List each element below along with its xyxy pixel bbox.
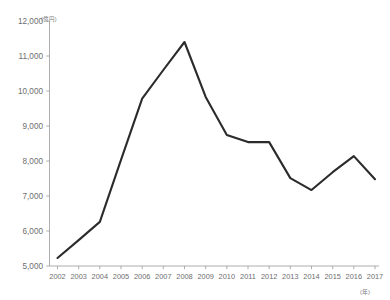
x-tick-label: 2012 bbox=[261, 272, 277, 281]
x-tick-label: 2010 bbox=[219, 272, 235, 281]
y-tick-label: 9,000 bbox=[23, 122, 44, 131]
line-chart: (億円) (年) 12,00011,00010,0009,0008,0007,0… bbox=[0, 0, 390, 300]
x-tick-label: 2014 bbox=[303, 272, 319, 281]
x-tick-label: 2013 bbox=[282, 272, 298, 281]
x-tick-label: 2009 bbox=[197, 272, 213, 281]
x-tick-label: 2017 bbox=[367, 272, 383, 281]
x-tick-label: 2011 bbox=[240, 272, 256, 281]
y-tick-label: 12,000 bbox=[18, 17, 43, 26]
x-tick-label: 2005 bbox=[113, 272, 129, 281]
x-tick-label: 2003 bbox=[70, 272, 86, 281]
x-tick-label: 2016 bbox=[346, 272, 362, 281]
y-tick-label: 5,000 bbox=[23, 262, 44, 271]
x-tick-label: 2004 bbox=[92, 272, 108, 281]
y-axis: 12,00011,00010,0009,0008,0007,0006,0005,… bbox=[18, 17, 50, 271]
series-line-0 bbox=[58, 42, 376, 258]
x-tick-label: 2015 bbox=[324, 272, 340, 281]
x-tick-label: 2007 bbox=[155, 272, 171, 281]
y-tick-label: 11,000 bbox=[19, 52, 44, 61]
y-tick-label: 10,000 bbox=[18, 87, 43, 96]
y-tick-label: 7,000 bbox=[23, 192, 44, 201]
x-axis: 2002200320042005200620072008200920102011… bbox=[49, 266, 383, 281]
y-tick-label: 8,000 bbox=[23, 157, 44, 166]
x-tick-label: 2008 bbox=[176, 272, 192, 281]
data-series-group bbox=[58, 42, 376, 258]
y-tick-label: 6,000 bbox=[23, 227, 44, 236]
x-tick-label: 2006 bbox=[134, 272, 150, 281]
chart-canvas: 12,00011,00010,0009,0008,0007,0006,0005,… bbox=[0, 0, 390, 300]
x-tick-label: 2002 bbox=[49, 272, 65, 281]
